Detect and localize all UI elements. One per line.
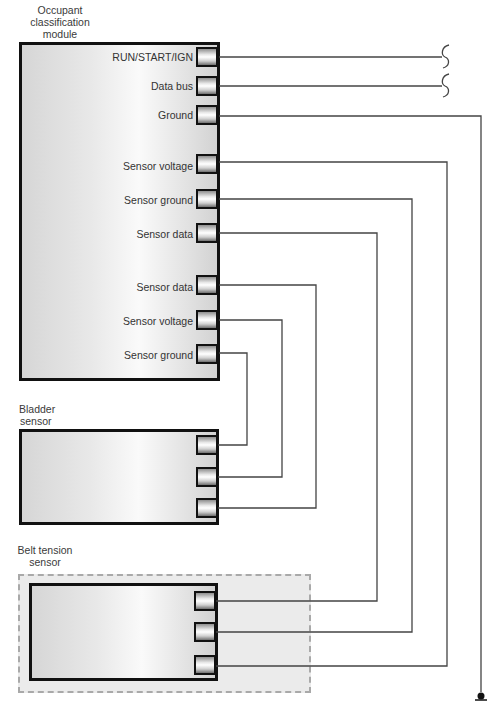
pin-label-data-bus: Data bus bbox=[151, 80, 193, 92]
terminal-sensor-voltage-2 bbox=[196, 310, 218, 330]
pin-label-sensor-voltage-1: Sensor voltage bbox=[123, 160, 193, 172]
terminal-data-bus bbox=[196, 76, 218, 96]
pin-label-sensor-ground-2: Sensor ground bbox=[124, 349, 193, 361]
belt-tension-sensor bbox=[29, 583, 218, 681]
wire-break-icon bbox=[442, 45, 449, 68]
pin-label-sensor-data-2: Sensor data bbox=[136, 281, 193, 293]
bladder-title-line-1: Bladder bbox=[19, 403, 55, 415]
terminal-sensor-data-2 bbox=[196, 275, 218, 295]
module-title-line-1: Occupant bbox=[10, 4, 110, 16]
pin-label-sensor-ground-1: Sensor ground bbox=[124, 194, 193, 206]
wire-break-icon bbox=[442, 74, 449, 97]
belt-title-line-1: Belt tension bbox=[14, 544, 76, 556]
terminal-sensor-ground-1 bbox=[196, 189, 218, 209]
belt-terminal-2 bbox=[194, 622, 216, 642]
belt-terminal-1 bbox=[194, 591, 216, 611]
belt-terminal-3 bbox=[194, 655, 216, 675]
wire-6 bbox=[218, 285, 316, 508]
terminal-sensor-ground-2 bbox=[196, 344, 218, 364]
pin-label-sensor-voltage-2: Sensor voltage bbox=[123, 315, 193, 327]
pin-label-ground: Ground bbox=[158, 109, 193, 121]
terminal-run-start-ign bbox=[196, 47, 218, 67]
wire-7 bbox=[218, 320, 282, 477]
module-title: Occupant classification module bbox=[10, 4, 110, 40]
belt-tension-sensor-title: Belt tension sensor bbox=[14, 544, 76, 568]
terminal-ground bbox=[196, 105, 218, 125]
occupant-classification-module bbox=[19, 42, 220, 381]
bladder-title-line-2: sensor bbox=[19, 415, 55, 427]
wire-4 bbox=[216, 199, 412, 632]
module-title-line-2: classification bbox=[10, 16, 110, 28]
terminal-sensor-data-1 bbox=[196, 223, 218, 243]
bladder-sensor bbox=[19, 429, 219, 525]
belt-title-line-2: sensor bbox=[14, 556, 76, 568]
bladder-terminal-1 bbox=[196, 435, 218, 455]
bladder-sensor-title: Bladder sensor bbox=[19, 403, 55, 427]
wire-8 bbox=[218, 353, 247, 445]
pin-label-sensor-data-1: Sensor data bbox=[136, 228, 193, 240]
bladder-terminal-2 bbox=[196, 467, 218, 487]
pin-label-run-start-ign: RUN/START/IGN bbox=[112, 51, 193, 63]
bladder-terminal-3 bbox=[196, 498, 218, 518]
terminal-sensor-voltage-1 bbox=[196, 154, 218, 174]
wire-5 bbox=[216, 233, 377, 601]
module-title-line-3: module bbox=[10, 28, 110, 40]
ground-icon bbox=[478, 693, 485, 700]
